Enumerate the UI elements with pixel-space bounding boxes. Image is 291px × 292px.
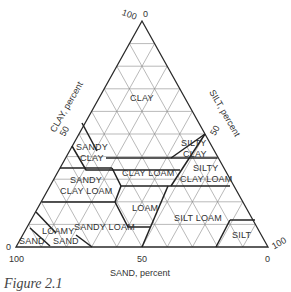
label-clay-loam: CLAY LOAM — [122, 168, 175, 178]
sand-tick-100: 100 — [9, 254, 24, 264]
clay-tick-0: 0 — [6, 242, 11, 252]
class-labels: CLAY SANDY CLAY SILTY CLAY CLAY LOAM SIL… — [19, 93, 251, 246]
label-sandy-clay-1: SANDY — [76, 142, 108, 152]
label-loamy-sand-1: LOAMY — [42, 226, 75, 236]
silt-tick-100: 100 — [270, 235, 288, 251]
sand-tick-0: 0 — [265, 254, 270, 264]
label-sandy-clay-loam-2: CLAY LOAM — [60, 186, 113, 196]
label-sandy-loam: SANDY LOAM — [74, 222, 135, 232]
label-silty-clay-loam-2: CLAY LOAM — [180, 174, 233, 184]
sand-axis-label: SAND, percent — [110, 268, 171, 278]
label-silty-clay-1: SILTY — [181, 138, 206, 148]
label-silt-loam: SILT LOAM — [174, 213, 222, 223]
apex-tick-0: 0 — [143, 9, 148, 19]
label-sandy-clay-2: CLAY — [80, 153, 104, 163]
sand-tick-50: 50 — [137, 254, 147, 264]
label-loam: LOAM — [132, 203, 158, 213]
label-silty-clay-2: CLAY — [183, 149, 207, 159]
label-loamy-sand-2: SAND — [53, 236, 79, 246]
label-sandy-clay-loam-1: SANDY — [70, 175, 102, 185]
apex-tick-100: 100 — [121, 7, 139, 22]
figure-caption: Figure 2.1 — [4, 276, 63, 292]
clay-axis-label: CLAY, percent — [48, 79, 85, 134]
label-silt: SILT — [232, 230, 251, 240]
label-sand: SAND — [19, 236, 45, 246]
silt-tick-50: 50 — [208, 124, 222, 138]
label-clay: CLAY — [130, 93, 154, 103]
label-silty-clay-loam-1: SILTY — [193, 163, 218, 173]
